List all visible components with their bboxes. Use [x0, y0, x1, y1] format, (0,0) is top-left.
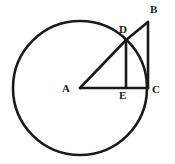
vertex-label-C: C — [152, 84, 160, 95]
vertex-label-D: D — [119, 24, 127, 35]
vertex-label-A: A — [62, 83, 70, 94]
segment-AD — [80, 40, 126, 88]
geometry-figure: A B C D E — [0, 0, 175, 164]
figure-canvas — [0, 0, 175, 164]
vertex-label-B: B — [150, 4, 157, 15]
vertex-label-E: E — [119, 90, 126, 101]
segment-DB — [126, 22, 148, 40]
